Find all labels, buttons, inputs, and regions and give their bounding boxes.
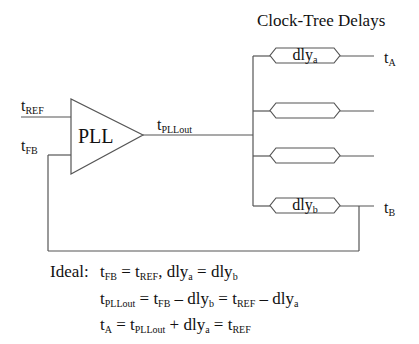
t-b-label: tB <box>384 200 395 218</box>
delay-a-label: dlya <box>270 47 340 65</box>
t-fb-label: tFB <box>21 138 38 156</box>
t-a-label: tA <box>384 50 396 68</box>
t-ref-label: tREF <box>21 98 44 116</box>
equation-line-1: tFB = tREF, dlya = dlyb <box>100 263 238 282</box>
equation-line-3: tA = tPLLout + dlya = tREF <box>100 316 251 335</box>
delay-b-label: dlyb <box>270 197 340 215</box>
ideal-label: Ideal: <box>50 263 89 280</box>
delay-element-3 <box>270 148 340 163</box>
delay-element-2 <box>270 103 340 118</box>
pll-label: PLL <box>78 125 114 148</box>
t-pllout-label: tPLLout <box>157 117 192 135</box>
diagram-title: Clock-Tree Delays <box>257 11 385 31</box>
equation-line-2: tPLLout = tFB – dlyb = tREF – dlya <box>100 290 298 309</box>
